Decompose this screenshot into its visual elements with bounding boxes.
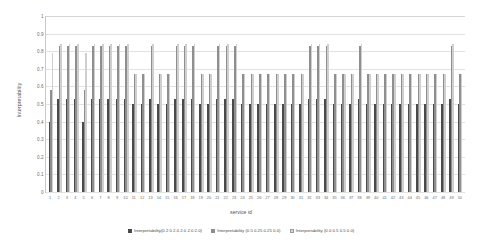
y-axis-tick-label: 0.1 <box>37 172 43 177</box>
bar <box>119 44 121 192</box>
x-axis-tick-label: 1 <box>46 195 54 204</box>
bar-group <box>364 16 372 192</box>
bar <box>377 74 379 192</box>
bar <box>411 74 413 192</box>
bar-group <box>272 16 280 192</box>
x-axis-ticks: 1234567891011121314151617181920212223242… <box>45 195 465 204</box>
bar <box>386 74 388 192</box>
bar <box>177 44 179 192</box>
bar-group <box>89 16 97 192</box>
bar <box>194 44 196 192</box>
bar-group <box>164 16 172 192</box>
bar-group <box>197 16 205 192</box>
bar <box>344 74 346 192</box>
bar-group <box>181 16 189 192</box>
x-axis-tick-label: 39 <box>364 195 372 204</box>
bar-group <box>431 16 439 192</box>
bar-group <box>422 16 430 192</box>
y-axis-tick-label: 0.2 <box>37 154 43 159</box>
bar <box>461 74 463 192</box>
bar <box>69 44 71 192</box>
x-axis-tick-label: 47 <box>431 195 439 204</box>
x-axis-tick-label: 9 <box>113 195 121 204</box>
y-axis-tick-label: 0.4 <box>37 119 43 124</box>
chart-legend: Interpretability(0.2 0 2.0 2.0 2.0 2.0)I… <box>0 228 482 233</box>
bar <box>452 44 454 192</box>
bar <box>227 44 229 192</box>
bar-group <box>222 16 230 192</box>
bar <box>352 74 354 192</box>
x-axis-title: service id <box>0 209 482 215</box>
x-axis-tick-label: 37 <box>347 195 355 204</box>
x-axis-tick-label: 30 <box>288 195 296 204</box>
bar-group <box>214 16 222 192</box>
bar-group <box>414 16 422 192</box>
x-axis-tick-label: 3 <box>63 195 71 204</box>
bar <box>60 44 62 192</box>
y-axis-tick-label: 0.8 <box>37 49 43 54</box>
bar-group <box>47 16 55 192</box>
bar-group <box>372 16 380 192</box>
bar <box>311 44 313 192</box>
x-axis-tick-label: 34 <box>322 195 330 204</box>
bar-group <box>448 16 456 192</box>
x-axis-tick-label: 16 <box>171 195 179 204</box>
plot-area: 00.10.20.30.40.50.60.70.80.91 <box>45 16 465 193</box>
bar <box>94 44 96 192</box>
bar <box>319 44 321 192</box>
bar-group <box>64 16 72 192</box>
bar-group <box>139 16 147 192</box>
x-axis-tick-label: 40 <box>372 195 380 204</box>
x-axis-tick-label: 2 <box>54 195 62 204</box>
bar <box>294 74 296 192</box>
legend-item[interactable]: Interpretability (0.5 0.25 0.25 0.0) <box>211 228 281 233</box>
bar <box>210 74 212 192</box>
bar-group <box>247 16 255 192</box>
bar-group <box>439 16 447 192</box>
x-axis-tick-label: 35 <box>330 195 338 204</box>
x-axis-tick-label: 23 <box>230 195 238 204</box>
y-axis-tick-label: 0.5 <box>37 102 43 107</box>
x-axis-tick-label: 17 <box>180 195 188 204</box>
legend-label: Interpretability (0.5 0.25 0.25 0.0) <box>217 228 280 233</box>
bar-group <box>322 16 330 192</box>
x-axis-tick-label: 26 <box>255 195 263 204</box>
bar-group <box>147 16 155 192</box>
x-axis-tick-label: 43 <box>397 195 405 204</box>
x-axis-tick-label: 10 <box>121 195 129 204</box>
bar-group <box>122 16 130 192</box>
bar-group <box>406 16 414 192</box>
bar-group <box>72 16 80 192</box>
x-axis-tick-label: 15 <box>163 195 171 204</box>
x-axis-tick-label: 41 <box>380 195 388 204</box>
legend-item[interactable]: Interpretability (0.0 0.5 0.5 0.0) <box>290 228 355 233</box>
bar-group <box>289 16 297 192</box>
x-axis-tick-label: 6 <box>88 195 96 204</box>
x-axis-tick-label: 5 <box>79 195 87 204</box>
x-axis-tick-label: 36 <box>339 195 347 204</box>
x-axis-tick-label: 14 <box>155 195 163 204</box>
gridline <box>46 192 465 193</box>
bar-group <box>231 16 239 192</box>
x-axis-tick-label: 33 <box>314 195 322 204</box>
x-axis-tick-label: 25 <box>247 195 255 204</box>
bar <box>185 44 187 192</box>
x-axis-tick-label: 27 <box>263 195 271 204</box>
x-axis-tick-label: 44 <box>405 195 413 204</box>
bar-group <box>114 16 122 192</box>
x-axis-tick-label: 48 <box>439 195 447 204</box>
bar-group <box>105 16 113 192</box>
bar <box>327 44 329 192</box>
bar <box>152 44 154 192</box>
bar <box>444 74 446 192</box>
bar <box>144 74 146 192</box>
bar-group <box>130 16 138 192</box>
bar <box>394 74 396 192</box>
x-axis-tick-label: 13 <box>146 195 154 204</box>
bar-group <box>281 16 289 192</box>
x-axis-tick-label: 18 <box>188 195 196 204</box>
legend-item[interactable]: Interpretability(0.2 0 2.0 2.0 2.0 2.0) <box>128 228 202 233</box>
x-axis-tick-label: 4 <box>71 195 79 204</box>
bar <box>127 44 129 192</box>
x-axis-tick-label: 46 <box>422 195 430 204</box>
